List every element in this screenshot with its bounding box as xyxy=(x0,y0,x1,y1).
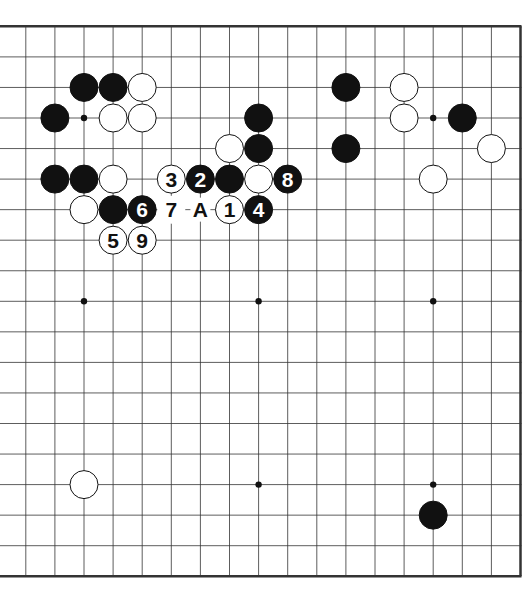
hoshi-point xyxy=(430,115,436,121)
black-stone xyxy=(419,501,447,529)
white-stone xyxy=(70,196,98,224)
move-number-label: 1 xyxy=(224,198,236,221)
move-number-label: 6 xyxy=(136,198,148,221)
white-stone xyxy=(390,104,418,132)
black-stone xyxy=(70,165,98,193)
black-stone xyxy=(41,165,69,193)
black-stone xyxy=(245,104,273,132)
move-number-label: 9 xyxy=(136,229,148,252)
black-stone xyxy=(245,135,273,163)
white-stone xyxy=(70,471,98,499)
go-board: 123456789 A xyxy=(0,0,532,593)
black-stone xyxy=(332,135,360,163)
black-stone xyxy=(216,165,244,193)
white-stone xyxy=(99,165,127,193)
hoshi-point xyxy=(255,481,261,487)
white-stone xyxy=(128,104,156,132)
white-stone xyxy=(390,73,418,101)
move-number-label: 2 xyxy=(195,168,207,191)
black-stone xyxy=(332,73,360,101)
black-stone xyxy=(448,104,476,132)
hoshi-point xyxy=(255,298,261,304)
black-stone xyxy=(99,73,127,101)
move-number-label: 7 xyxy=(165,198,177,221)
move-number-label: 4 xyxy=(253,198,265,221)
white-stone xyxy=(128,73,156,101)
black-stone xyxy=(99,196,127,224)
hoshi-point xyxy=(430,481,436,487)
hoshi-point xyxy=(81,298,87,304)
hoshi-point xyxy=(430,298,436,304)
white-stone xyxy=(419,165,447,193)
move-number-label: 5 xyxy=(107,229,119,252)
white-stone xyxy=(245,165,273,193)
black-stone xyxy=(70,73,98,101)
move-number-label: 8 xyxy=(282,168,294,191)
markers: A xyxy=(190,198,210,222)
black-stone xyxy=(41,104,69,132)
white-stone xyxy=(477,135,505,163)
point-marker-label: A xyxy=(193,198,208,221)
white-stone xyxy=(99,104,127,132)
move-number-label: 3 xyxy=(165,168,177,191)
white-stone xyxy=(216,135,244,163)
hoshi-point xyxy=(81,115,87,121)
